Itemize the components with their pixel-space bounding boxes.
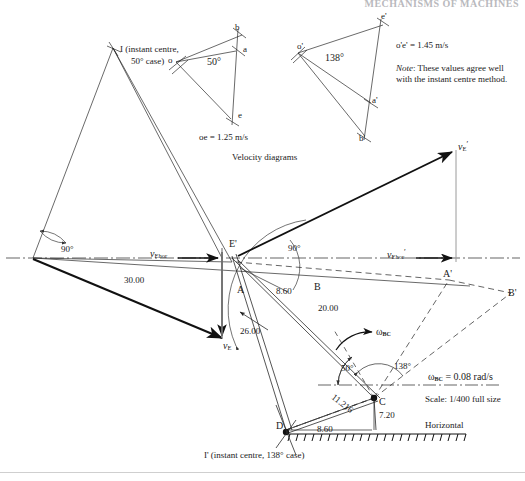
vd-right-angle: 138°	[325, 52, 344, 65]
omega-arrow-upper	[336, 332, 372, 350]
label-point-D: D	[276, 420, 283, 433]
angle-left-90: 90°	[61, 244, 74, 255]
dashed-crank-CD	[286, 330, 374, 430]
vd-right-point-a-prime: a'	[372, 95, 378, 106]
label-vE-prime: vE′	[458, 140, 468, 154]
vd-left-point-o: o	[168, 55, 173, 66]
figure-page: MECHANISMS OF MACHINES	[0, 0, 525, 481]
angle-crank-138: 138°	[394, 361, 411, 372]
dimension-20: 20.00	[318, 303, 338, 314]
velocity-diagrams-caption: Velocity diagrams	[232, 152, 297, 163]
vd-right-point-o-prime: o'	[297, 41, 303, 52]
label-omega-bc-value: ωBC = 0.08 rad/s	[428, 371, 493, 384]
label-vEhor: vEhor	[150, 248, 167, 261]
dimension-720: 7.20	[379, 410, 395, 421]
vd-right-magnitude: o'e' = 1.45 m/s	[396, 40, 448, 51]
vd-left-angle: 50°	[207, 56, 221, 69]
label-point-C: C	[379, 396, 386, 409]
vd-right-point-b-prime: b'	[359, 133, 365, 144]
vd-left-magnitude: oe = 1.25 m/s	[199, 132, 248, 143]
instant-centre-rays	[33, 42, 232, 262]
label-omega-bc: ωBC	[376, 326, 391, 339]
velocity-diagram-left-lines	[169, 28, 246, 126]
angle-crank-50: 50°	[341, 363, 354, 374]
velocity-diagram-right-lines	[291, 18, 389, 142]
label-point-A-prime: A'	[443, 268, 452, 281]
footer-divider	[0, 472, 525, 473]
vd-left-point-b: b	[235, 22, 240, 33]
mechanism-links	[232, 254, 380, 433]
dimension-860-upper: 8.60	[276, 286, 292, 297]
label-point-E-prime: E'	[229, 238, 237, 251]
link-left-to-vE	[33, 259, 222, 338]
vd-left-point-a: a	[243, 44, 247, 55]
note-lead: Note	[396, 63, 413, 73]
vd-right-point-e-prime: e'	[381, 11, 387, 22]
label-point-A: A	[237, 284, 244, 297]
instant-centre-prime-label: I' (instant centre, 138° case)	[204, 450, 304, 461]
left-pivot-lines	[33, 258, 470, 286]
dimension-26: 26.00	[240, 326, 260, 337]
label-vEhor-prime: vEhor′	[387, 248, 406, 262]
vE-prime-arrow	[238, 152, 452, 256]
instant-centre-label-line1: I (instant centre,	[120, 44, 179, 55]
label-point-B-prime: B'	[508, 287, 516, 300]
vd-left-point-e: e	[238, 110, 242, 121]
label-point-B: B	[314, 281, 321, 294]
scale-note: Scale: 1/400 full size	[425, 394, 501, 405]
horizontal-label: Horizontal	[425, 420, 464, 431]
instant-centre-label-line2: 50° case)	[131, 56, 164, 67]
note-block: Note: These values agree well with the i…	[396, 63, 518, 86]
left-angle-arc	[40, 231, 66, 243]
label-vE: vE	[223, 340, 231, 353]
angle-mid-90: 90°	[288, 243, 301, 254]
note-text: : These values agree well with the insta…	[396, 63, 507, 84]
ground-hatching	[286, 434, 466, 441]
dimension-30: 30.00	[124, 275, 144, 286]
dimension-860-lower: 8.60	[317, 424, 333, 435]
